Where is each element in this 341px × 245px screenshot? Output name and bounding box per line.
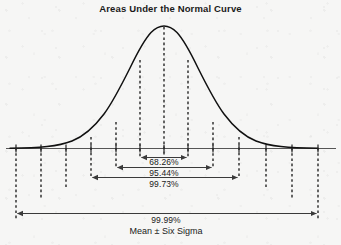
label-six-sigma: 99.99% — [135, 215, 197, 225]
sigma-gridlines — [16, 27, 318, 219]
normal-curve-plot — [0, 0, 341, 245]
label-one-sigma: 68.26% — [133, 157, 195, 167]
figure-caption: Mean ± Six Sigma — [106, 226, 226, 236]
label-two-sigma: 95.44% — [133, 168, 195, 178]
normal-curve-figure: Areas Under the Normal Curve — [0, 0, 341, 245]
label-three-sigma: 99.73% — [133, 179, 195, 189]
